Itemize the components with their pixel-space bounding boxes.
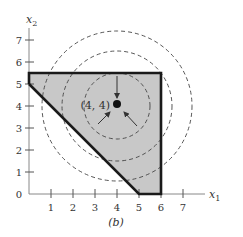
- figure-caption: (b): [108, 216, 124, 229]
- x-axis-label: x1: [209, 188, 220, 203]
- origin-label: 0: [16, 189, 22, 200]
- x-tick-label: 1: [48, 202, 54, 213]
- x-tick-label: 3: [92, 202, 98, 213]
- y-tick-label: 2: [16, 145, 22, 156]
- diagram: (4, 4) 1 2 3 4 5 6 7 1 2 3 4 5 6 7 0 x1 …: [0, 0, 243, 237]
- y-tick-label: 1: [16, 167, 22, 178]
- y-tick-label: 7: [16, 35, 22, 46]
- x-tick-label: 6: [158, 202, 164, 213]
- y-tick-label: 3: [16, 123, 22, 134]
- target-point: [113, 100, 121, 108]
- feasible-region: [29, 73, 161, 194]
- x-tick-label: 5: [136, 202, 142, 213]
- x-tick-label: 7: [180, 202, 186, 213]
- y-tick-label: 6: [16, 57, 22, 68]
- point-label: (4, 4): [80, 99, 110, 112]
- y-tick-label: 5: [16, 79, 22, 90]
- x-tick-label: 2: [70, 202, 76, 213]
- x-tick-label: 4: [114, 202, 120, 213]
- y-axis-label: x2: [26, 13, 37, 28]
- y-tick-label: 4: [16, 101, 22, 112]
